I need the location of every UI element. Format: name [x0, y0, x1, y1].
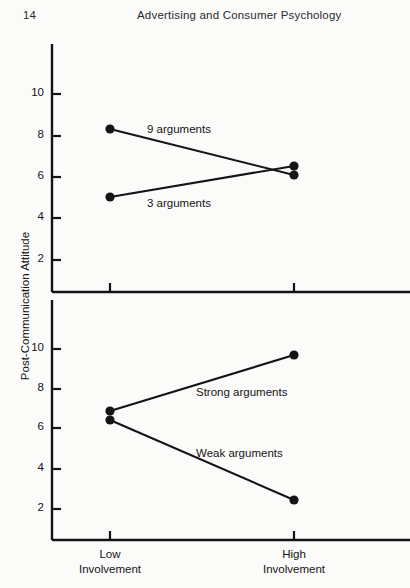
page-canvas: 14 Advertising and Consumer Psychology — [0, 0, 410, 588]
x-axis-label-low: Low Involvement — [50, 547, 170, 577]
series-line-weak-arguments — [110, 420, 294, 500]
upper-ytick-label-10: 10 — [22, 86, 44, 98]
series-point-3-arguments-high — [289, 161, 298, 170]
x-axis-label-low-line2: Involvement — [50, 562, 170, 577]
series-line-9-arguments — [110, 129, 294, 175]
chart-svg — [0, 0, 410, 588]
series-label-weak-arguments: Weak arguments — [196, 447, 283, 459]
series-point-strong-low — [105, 406, 114, 415]
figure-two-panel-line-chart: 10 8 6 4 2 10 8 6 4 2 9 arguments 3 argu… — [0, 0, 410, 588]
series-point-strong-high — [289, 350, 298, 359]
series-line-strong-arguments — [110, 355, 294, 411]
x-axis-label-high-line2: Involvement — [234, 562, 354, 577]
series-point-weak-high — [289, 495, 298, 504]
upper-ytick-label-8: 8 — [22, 128, 44, 140]
upper-panel-axes — [52, 44, 410, 292]
series-line-3-arguments — [110, 166, 294, 197]
series-label-9-arguments: 9 arguments — [147, 123, 211, 135]
upper-ytick-label-6: 6 — [22, 169, 44, 181]
series-point-3-arguments-low — [105, 192, 114, 201]
lower-ytick-label-4: 4 — [22, 461, 44, 473]
x-axis-label-high: High Involvement — [234, 547, 354, 577]
lower-ytick-label-6: 6 — [22, 420, 44, 432]
series-point-9-arguments-low — [105, 124, 114, 133]
series-point-weak-low — [105, 415, 114, 424]
lower-ytick-label-2: 2 — [22, 501, 44, 513]
y-axis-title: Post-Communication Attitude — [19, 206, 31, 406]
upper-panel-series — [105, 124, 298, 201]
lower-panel-series — [105, 350, 298, 504]
series-label-3-arguments: 3 arguments — [147, 197, 211, 209]
x-axis-label-high-line1: High — [234, 547, 354, 562]
series-point-9-arguments-high — [289, 170, 298, 179]
x-axis-label-low-line1: Low — [50, 547, 170, 562]
series-label-strong-arguments: Strong arguments — [196, 386, 287, 398]
